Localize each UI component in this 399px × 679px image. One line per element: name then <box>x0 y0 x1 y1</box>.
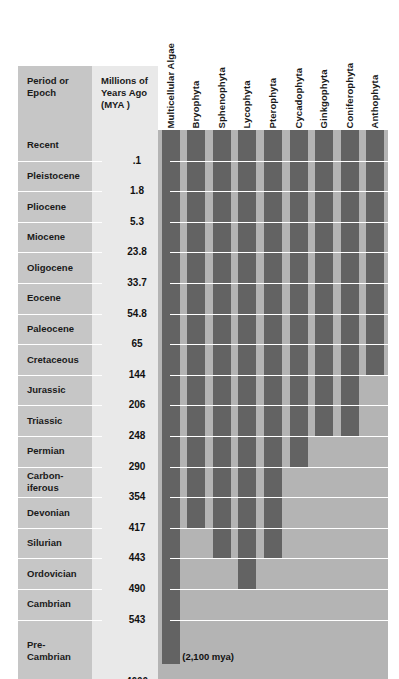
header-mya-line2: Years Ago <box>101 87 151 99</box>
taxon-header-lycophyta: Lycophyta <box>242 80 252 128</box>
epoch-label-line: Cambrian <box>27 651 71 663</box>
header-mya-line1: Millions of <box>101 75 151 87</box>
taxon-header-anthophyta: Anthophyta <box>370 74 380 128</box>
epoch-label-pliocene: Pliocene <box>18 191 92 222</box>
epoch-label-recent: Recent <box>18 130 92 161</box>
header-period-or-epoch: Period or Epoch <box>18 66 92 130</box>
taxon-header-band: Multicellular AlgaeBryophytaSphenophytaL… <box>158 0 388 130</box>
epoch-label-oligocene: Oligocene <box>18 252 92 283</box>
taxon-header-ginkgophyta: Ginkgophyta <box>319 69 329 128</box>
mya-cell <box>92 589 158 620</box>
range-bar-bryophyta <box>187 130 205 528</box>
header-mya-line3: (MYA ) <box>101 99 151 111</box>
mya-cell <box>92 436 158 467</box>
epoch-label-silurian: Silurian <box>18 528 92 559</box>
epoch-label-line: Pliocene <box>27 201 66 213</box>
epoch-label-line: iferous <box>27 482 63 494</box>
timescale-body: RecentPleistocenePlioceneMioceneOligocen… <box>0 130 399 679</box>
mya-cell <box>92 314 158 345</box>
mya-cell <box>92 497 158 528</box>
range-bar-sphenophyta <box>213 130 231 558</box>
mya-cell <box>92 130 158 161</box>
epoch-label-eocene: Eocene <box>18 283 92 314</box>
mya-cell <box>92 191 158 222</box>
mya-cell <box>92 558 158 589</box>
epoch-label-line: Permian <box>27 445 65 457</box>
mya-cell <box>92 375 158 406</box>
epoch-label-pre-cambrian: Pre-Cambrian <box>18 620 92 679</box>
range-bar-pterophyta <box>264 130 282 558</box>
epoch-label-line: Cretaceous <box>27 354 79 366</box>
epoch-label-devonian: Devonian <box>18 497 92 528</box>
mya-cell <box>92 620 158 679</box>
epoch-label-line: Ordovician <box>27 568 77 580</box>
mya-cell <box>92 344 158 375</box>
algae-origin-annotation: (2,100 mya) <box>182 651 234 662</box>
mya-cell <box>92 405 158 436</box>
epoch-label-cambrian: Cambrian <box>18 589 92 620</box>
epoch-label-line: Jurassic <box>27 384 66 396</box>
epoch-label-ordovician: Ordovician <box>18 558 92 589</box>
mya-cell <box>92 252 158 283</box>
epoch-label-line: Paleocene <box>27 323 74 335</box>
header-millions-of-years-ago: Millions of Years Ago (MYA ) <box>92 66 158 130</box>
mya-cell <box>92 467 158 498</box>
epoch-label-line: Recent <box>27 139 59 151</box>
range-bar-lycophyta <box>238 130 256 589</box>
epoch-label-miocene: Miocene <box>18 222 92 253</box>
header-period-line2: Epoch <box>27 87 85 99</box>
range-bar-coniferophyta <box>341 130 359 436</box>
range-bars-layer <box>158 130 388 679</box>
mya-cell <box>92 528 158 559</box>
taxon-header-bryophyta: Bryophyta <box>191 80 201 128</box>
epoch-label-line: Pleistocene <box>27 170 80 182</box>
epoch-label-pleistocene: Pleistocene <box>18 161 92 192</box>
epoch-label-cretaceous: Cretaceous <box>18 344 92 375</box>
header-period-line1: Period or <box>27 75 85 87</box>
range-bar-anthophyta <box>366 130 384 375</box>
mya-cell <box>92 222 158 253</box>
epoch-label-line: Devonian <box>27 507 70 519</box>
epoch-label-line: Cambrian <box>27 598 71 610</box>
taxon-header-sphenophyta: Sphenophyta <box>216 67 226 128</box>
epoch-label-line: Eocene <box>27 292 61 304</box>
epoch-label-paleocene: Paleocene <box>18 314 92 345</box>
epoch-label-line: Silurian <box>27 537 62 549</box>
epoch-label-triassic: Triassic <box>18 405 92 436</box>
epoch-label-jurassic: Jurassic <box>18 375 92 406</box>
epoch-label-permian: Permian <box>18 436 92 467</box>
epoch-label-line: Triassic <box>27 415 62 427</box>
taxon-header-coniferophyta: Coniferophyta <box>344 62 354 128</box>
taxon-header-multicellular-algae: Multicellular Algae <box>165 43 175 128</box>
epoch-label-line: Carbon- <box>27 470 63 482</box>
epoch-label-line: Miocene <box>27 231 65 243</box>
taxon-header-pterophyta: Pterophyta <box>268 77 278 128</box>
range-bar-ginkgophyta <box>315 130 333 436</box>
range-bar-multicellular-algae <box>162 130 180 664</box>
mya-cell <box>92 283 158 314</box>
epoch-label-line: Pre- <box>27 639 71 651</box>
epoch-label-carboniferous: Carbon-iferous <box>18 467 92 498</box>
mya-cell <box>92 161 158 192</box>
range-bar-cycadophyta <box>290 130 308 467</box>
taxon-header-cycadophyta: Cycadophyta <box>293 67 303 128</box>
epoch-label-line: Oligocene <box>27 262 73 274</box>
geologic-timescale-chart: Multicellular AlgaeBryophytaSphenophytaL… <box>0 0 399 679</box>
